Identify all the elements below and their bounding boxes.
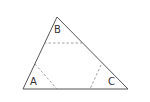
- vertex-label-b: B: [54, 24, 61, 35]
- vertex-label-c: C: [108, 76, 115, 87]
- triangle-diagram: A B C: [0, 0, 150, 102]
- dashed-cut-a: [35, 64, 57, 89]
- vertex-label-a: A: [30, 76, 37, 87]
- dashed-cut-c: [90, 65, 101, 89]
